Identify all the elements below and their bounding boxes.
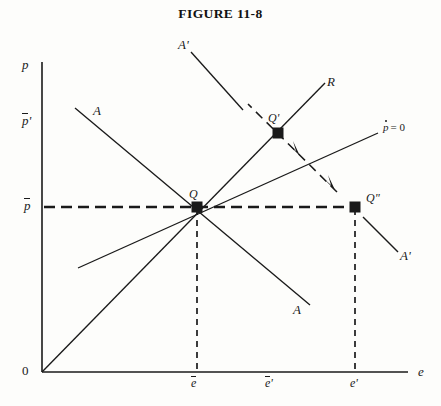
curve-R xyxy=(42,83,325,372)
curve-A-prime-lower xyxy=(363,217,398,252)
label-curve-pdot-zero: p= 0 xyxy=(383,122,405,133)
label-point-Q-prime: Q' xyxy=(268,112,279,124)
x-axis-label: e xyxy=(418,365,424,378)
origin-label: 0 xyxy=(22,364,29,377)
y-tick-p-bar-prime: p' xyxy=(22,114,31,127)
marker-Q-prime xyxy=(273,128,284,139)
marker-Q-dblprime xyxy=(350,202,361,213)
figure-container: FIGURE 11-8 xyxy=(0,0,441,406)
label-curve-A-lower: A xyxy=(293,303,301,316)
label-curve-R: R xyxy=(327,75,335,88)
marker-Q xyxy=(192,202,203,213)
x-tick-e-bar-prime: e' xyxy=(265,377,273,389)
label-point-Q-dblprime: Q" xyxy=(366,192,380,204)
curve-A-prime-upper xyxy=(191,52,243,110)
label-curve-A-upper: A xyxy=(93,104,101,117)
curve-pdot-zero xyxy=(78,133,378,268)
label-curve-A-prime-top: A' xyxy=(178,38,189,51)
label-point-Q: Q xyxy=(189,188,198,200)
y-axis-label: p xyxy=(22,58,29,71)
label-curve-A-prime-bottom: A' xyxy=(400,249,411,262)
y-tick-p-bar: p xyxy=(24,199,31,212)
guide-lines xyxy=(44,207,355,370)
x-tick-e-prime: e' xyxy=(350,377,358,389)
point-markers xyxy=(192,128,361,213)
x-tick-e-bar: e xyxy=(191,377,196,389)
